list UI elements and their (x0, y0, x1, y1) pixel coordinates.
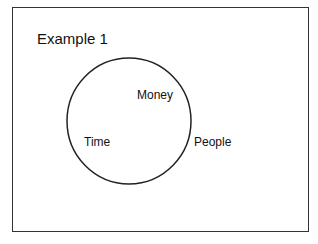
label-people: People (194, 135, 231, 149)
label-time: Time (84, 135, 110, 149)
circle-shape (0, 0, 318, 244)
label-money: Money (137, 88, 173, 102)
